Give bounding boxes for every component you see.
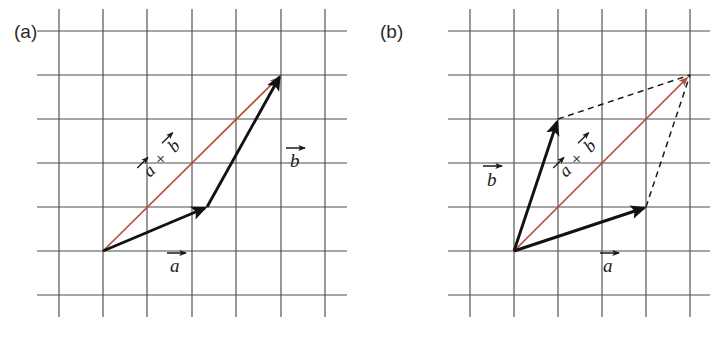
vector-b-label-a: b: [290, 150, 300, 171]
vector-b-label-b: b: [487, 169, 497, 190]
panel-b-label: (b): [380, 21, 403, 42]
vector-a-label-b: a: [603, 255, 613, 276]
vector-addition-figure: (a) a b a + b: [0, 0, 710, 344]
vector-a-label-a: a: [170, 255, 180, 276]
figure-canvas: (a) a b a + b: [0, 0, 710, 344]
panel-a-label: (a): [14, 21, 37, 42]
figure-background: [0, 0, 710, 344]
